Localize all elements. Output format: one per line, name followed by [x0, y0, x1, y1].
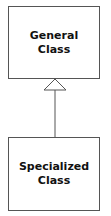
specialized-class-label-line1: Specialized	[19, 160, 89, 174]
hollow-triangle-icon	[44, 79, 66, 90]
specialized-class-box: Specialized Class	[8, 137, 100, 211]
specialized-class-label-line2: Class	[38, 174, 70, 188]
